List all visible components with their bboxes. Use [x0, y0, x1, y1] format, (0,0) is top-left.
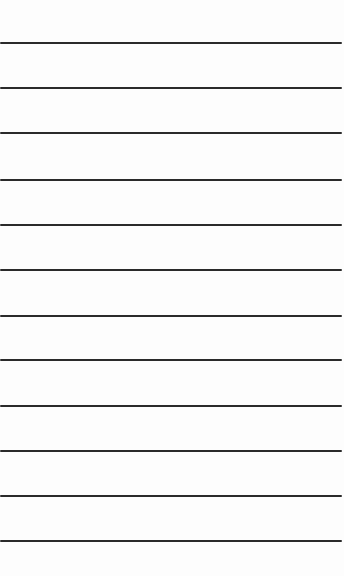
ruled-line [0, 132, 342, 134]
ruled-line [0, 224, 342, 226]
ruled-line [0, 405, 342, 407]
ruled-line [0, 315, 342, 317]
ruled-line [0, 42, 342, 44]
ruled-line [0, 87, 342, 89]
ruled-line [0, 179, 342, 181]
ruled-line [0, 269, 342, 271]
ruled-line [0, 540, 342, 542]
ruled-line [0, 450, 342, 452]
ruled-line [0, 495, 342, 497]
ruled-line [0, 359, 342, 361]
